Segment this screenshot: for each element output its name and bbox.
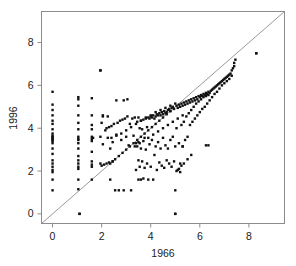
data-point (105, 127, 107, 129)
data-point (115, 135, 117, 137)
data-point (228, 78, 230, 80)
data-point (174, 213, 176, 215)
data-point (51, 123, 53, 125)
data-point (51, 159, 53, 161)
data-point (131, 117, 133, 119)
data-point (119, 120, 121, 122)
data-point (161, 164, 163, 166)
data-point (184, 139, 186, 141)
data-point (140, 147, 142, 149)
data-point (100, 164, 102, 166)
data-point (91, 160, 93, 162)
data-point (152, 133, 154, 135)
data-point (226, 80, 228, 82)
data-point (51, 114, 53, 116)
data-point (223, 82, 225, 84)
data-point (186, 158, 188, 160)
data-point (118, 189, 120, 191)
data-point (170, 166, 172, 168)
y-tick-label: 4 (28, 122, 34, 134)
data-point (153, 154, 155, 156)
data-point (233, 62, 235, 64)
data-point (172, 121, 174, 123)
data-point (135, 169, 137, 171)
data-point (174, 102, 176, 104)
data-point (145, 148, 147, 150)
data-point (179, 171, 181, 173)
y-tick-label: 0 (28, 207, 34, 219)
data-point (51, 142, 53, 144)
data-point (113, 123, 115, 125)
data-point (51, 166, 53, 168)
data-point (194, 117, 196, 119)
data-point (168, 162, 170, 164)
data-point (174, 189, 176, 191)
data-point (77, 114, 79, 116)
data-point (178, 168, 180, 170)
data-point (99, 69, 101, 71)
data-point (99, 136, 101, 138)
data-point (111, 160, 113, 162)
data-point (151, 116, 153, 118)
data-point (91, 140, 93, 142)
data-point (162, 116, 164, 118)
data-point (196, 114, 198, 116)
data-point (147, 178, 149, 180)
data-point (162, 127, 164, 129)
data-point (199, 111, 201, 113)
data-point (51, 91, 53, 93)
data-point (183, 101, 185, 103)
data-point (196, 98, 198, 100)
data-point (229, 72, 231, 74)
data-point (204, 106, 206, 108)
data-point (213, 93, 215, 95)
y-tick-label: 2 (28, 165, 34, 177)
data-point (165, 111, 167, 113)
x-tick-label: 6 (197, 230, 203, 242)
data-point (234, 58, 236, 60)
data-point (91, 97, 93, 99)
data-point (125, 129, 127, 131)
data-point (168, 108, 170, 110)
data-point (99, 162, 101, 164)
x-tick-label: 4 (148, 230, 154, 242)
data-point (129, 145, 131, 147)
data-point (179, 162, 181, 164)
data-point (218, 87, 220, 89)
data-point (142, 118, 144, 120)
data-point (77, 178, 79, 180)
y-tick-label: 6 (28, 79, 34, 91)
data-point (107, 137, 109, 139)
data-point (114, 158, 116, 160)
data-point (109, 147, 111, 149)
data-point (159, 109, 161, 111)
data-point (123, 99, 125, 101)
data-point (109, 178, 111, 180)
data-point (125, 148, 127, 150)
data-point (136, 145, 138, 147)
data-point (51, 109, 53, 111)
data-point (177, 107, 179, 109)
data-point (185, 100, 187, 102)
data-point (137, 116, 139, 118)
data-point (145, 116, 147, 118)
data-point (130, 126, 132, 128)
data-point (51, 169, 53, 171)
data-point (173, 108, 175, 110)
data-point (77, 159, 79, 161)
data-point (104, 129, 106, 131)
data-point (77, 105, 79, 107)
data-point (78, 213, 80, 215)
plot-canvas: 02468 02468 1966 1996 (0, 0, 296, 266)
data-point (77, 147, 79, 149)
data-point (158, 112, 160, 114)
data-point (138, 142, 140, 144)
data-point (120, 132, 122, 134)
data-point (255, 52, 257, 54)
data-point (110, 137, 112, 139)
data-point (147, 129, 149, 131)
data-point (154, 111, 156, 113)
data-point (181, 105, 183, 107)
scatter-plot-figure: 02468 02468 1966 1996 (0, 0, 296, 266)
data-point (77, 166, 79, 168)
